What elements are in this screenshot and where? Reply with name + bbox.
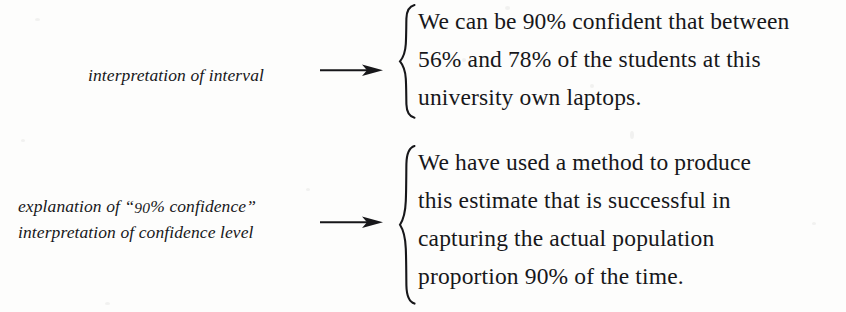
text-line: 56% and 78% of the students at this <box>418 40 790 78</box>
text-line: We can be 90% confident that between <box>418 2 790 40</box>
text-line: capturing the actual population <box>418 219 751 257</box>
annotation-row-interval: interpretation of interval We can be 90%… <box>0 0 846 140</box>
annotation-label-confidence-level: explanation of “90% confidence” interpre… <box>18 194 256 245</box>
left-curly-brace-icon <box>398 3 418 121</box>
label-line: interpretation of interval <box>88 63 264 88</box>
label-text-suffix: % confidence” <box>150 196 256 216</box>
right-arrow-icon <box>320 63 384 77</box>
annotated-text-figure: interpretation of interval We can be 90%… <box>0 0 846 312</box>
left-curly-brace-icon <box>398 144 418 306</box>
annotation-label-interval: interpretation of interval <box>88 63 264 88</box>
annotation-text-interval: We can be 90% confident that between 56%… <box>418 2 790 116</box>
text-line: We have used a method to produce <box>418 143 751 181</box>
text-line: proportion 90% of the time. <box>418 257 751 295</box>
right-arrow-icon <box>320 215 384 229</box>
label-line-interpretation: interpretation of confidence level <box>18 220 256 245</box>
annotation-row-confidence-level: explanation of “90% confidence” interpre… <box>0 140 846 312</box>
label-text-number: 90 <box>134 199 150 216</box>
text-line: this estimate that is successful in <box>418 181 751 219</box>
text-line: university own laptops. <box>418 78 790 116</box>
annotation-text-confidence-level: We have used a method to produce this es… <box>418 143 751 295</box>
label-line-explanation: explanation of “90% confidence” <box>18 194 256 220</box>
label-text-prefix: explanation of “ <box>18 196 134 216</box>
